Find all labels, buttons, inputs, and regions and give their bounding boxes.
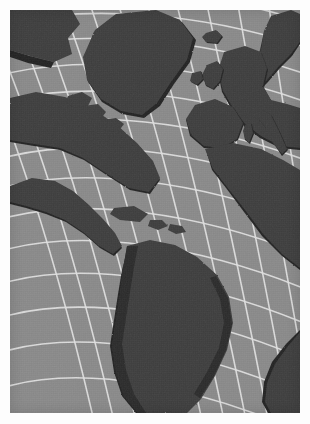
map-frame[interactable] (10, 10, 300, 413)
map-plate-page (0, 0, 310, 424)
world-map-graphic[interactable] (10, 10, 300, 413)
paper-grain (10, 10, 300, 413)
